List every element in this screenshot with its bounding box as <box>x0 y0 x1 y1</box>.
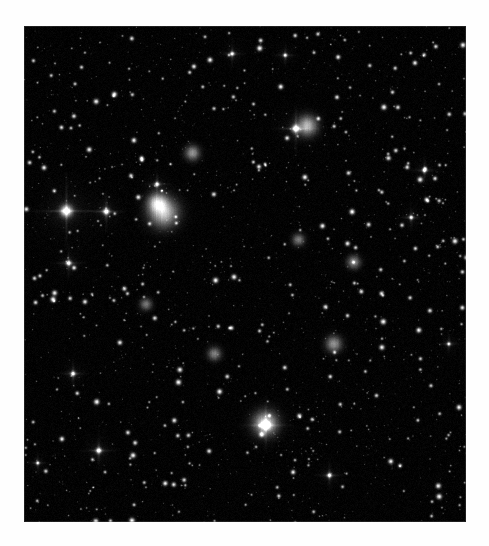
image-page <box>0 0 489 546</box>
spiral-galaxy-plate <box>24 26 466 522</box>
galaxy-image-canvas <box>24 26 466 522</box>
